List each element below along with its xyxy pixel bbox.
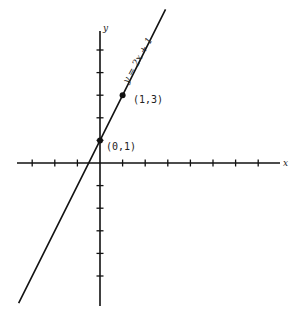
point-label-0-1: (0,1) [106,141,136,152]
data-point [120,92,126,98]
x-axis-label: x [283,158,288,168]
coordinate-plane: x y y = 2x + 1 (1,3) (0,1) [0,0,301,319]
y-axis-label: y [102,23,109,33]
data-point [97,137,103,143]
equation-label: y = 2x + 1 [120,35,155,86]
axes [17,31,280,306]
point-label-1-3: (1,3) [133,94,163,105]
